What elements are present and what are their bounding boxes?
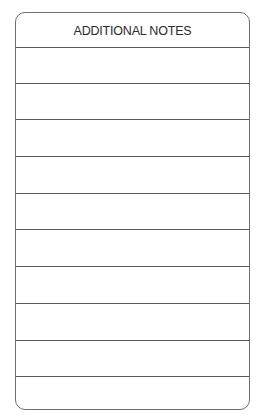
note-line[interactable]	[16, 230, 249, 266]
note-line[interactable]	[16, 84, 249, 119]
note-line[interactable]	[16, 120, 249, 156]
note-line[interactable]	[16, 194, 249, 229]
note-line[interactable]	[16, 341, 249, 376]
additional-notes-card: ADDITIONAL NOTES	[15, 12, 250, 410]
note-line[interactable]	[16, 48, 249, 83]
note-line[interactable]	[16, 377, 249, 409]
note-line[interactable]	[16, 267, 249, 303]
note-line[interactable]	[16, 157, 249, 193]
note-line[interactable]	[16, 304, 249, 340]
card-title: ADDITIONAL NOTES	[16, 13, 249, 47]
